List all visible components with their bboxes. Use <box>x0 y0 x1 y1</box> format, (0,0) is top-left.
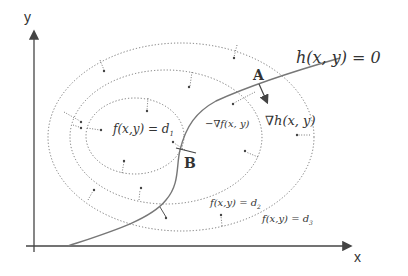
neg-grad-f-arrow-dot <box>232 103 234 105</box>
normal-tick-lower-dot <box>165 217 167 219</box>
point-a-label: A <box>252 67 265 83</box>
neg-grad-f-arrow <box>234 92 255 103</box>
lagrange-diagram: y x h(x, y) = 0 A B −∇f(x, y) ∇h(x, y <box>0 0 408 276</box>
neg-grad-f-label: −∇f(x, y) <box>205 118 250 129</box>
contour-d1-label: f(x,y) = d1 <box>112 122 174 138</box>
grad-h-label: ∇h(x, y) <box>265 113 316 128</box>
gradient-ticks <box>64 45 310 226</box>
x-axis-label: x <box>354 249 361 265</box>
grad-h-arrow <box>259 84 267 102</box>
contour-d2 <box>70 70 262 204</box>
point-b-label: B <box>184 155 196 171</box>
contour-d3-label: f(x,y) = d3 <box>261 213 313 226</box>
normal-tick-lower <box>160 207 166 217</box>
contour-d3 <box>48 43 314 231</box>
constraint-label: h(x, y) = 0 <box>296 48 381 67</box>
y-axis-label: y <box>24 9 31 25</box>
contour-d2-label: f(x,y) = d2 <box>209 197 261 210</box>
